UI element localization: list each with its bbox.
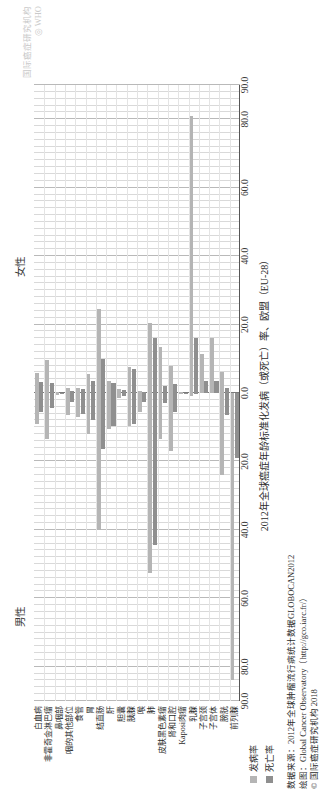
- watermark-line-iarc: 国际癌症研究机构: [22, 6, 33, 78]
- footer-line-copyright: © 国际癌症研究机构 2018: [309, 555, 321, 789]
- group-label-female: 女性: [12, 257, 27, 277]
- legend-swatch-mortality: [266, 776, 273, 783]
- bar-male-incidence: [117, 393, 121, 398]
- chart-legend: 发病率 死亡率: [247, 745, 279, 783]
- footer-line-source: 数据来源：2012年全球肿瘤流行病统计数据GLOBOCAN2012: [286, 555, 298, 789]
- bar-male-incidence: [107, 393, 111, 429]
- gridline-horizontal: [147, 85, 148, 701]
- figure-stage: 男性 女性 白血病非霍奇金淋巴瘤鼻咽部咽的其他部位食管胃结直肠肝胆囊胰腺喉肺皮肤…: [0, 0, 336, 797]
- gridline-horizontal: [96, 85, 97, 701]
- gridline-horizontal: [75, 85, 76, 701]
- legend-item-mortality: 死亡率: [263, 745, 276, 783]
- gridline-horizontal: [106, 85, 107, 701]
- gridline-horizontal: [137, 85, 138, 701]
- category-label: 非霍奇金淋巴瘤: [45, 706, 53, 762]
- bar-female-mortality: [142, 392, 146, 393]
- category-label: 食管: [76, 706, 84, 722]
- source-footer: 数据来源：2012年全球肿瘤流行病统计数据GLOBOCAN2012 绘图：Glo…: [286, 555, 321, 789]
- category-label: 肾和口腔: [169, 706, 177, 738]
- watermark-line-who: ◎ WHO: [33, 6, 44, 78]
- value-tick-label: 60.0: [240, 590, 250, 607]
- iarc-watermark: 国际癌症研究机构 ◎ WHO: [22, 6, 44, 78]
- bar-male-incidence: [76, 393, 80, 417]
- category-axis: 白血病非霍奇金淋巴瘤鼻咽部咽的其他部位食管胃结直肠肝胆囊胰腺喉肺皮肤黑色素瘤肾和…: [34, 703, 240, 797]
- gridline-horizontal: [209, 85, 210, 701]
- bar-female-mortality: [101, 359, 105, 393]
- value-tick-label: 40.0: [240, 522, 250, 539]
- bar-female-incidence: [35, 373, 39, 393]
- bar-male-incidence: [169, 393, 173, 451]
- value-tick-label: 20.0: [240, 453, 250, 470]
- bar-male-mortality: [122, 393, 126, 396]
- legend-item-incidence: 发病率: [247, 745, 260, 783]
- bar-male-mortality: [81, 393, 85, 414]
- bar-male-mortality: [101, 393, 105, 449]
- bar-female-incidence: [220, 372, 224, 393]
- bar-female-mortality: [163, 386, 167, 393]
- legend-label-mortality: 死亡率: [263, 745, 276, 772]
- bar-female-mortality: [132, 369, 136, 393]
- bar-male-mortality: [142, 393, 146, 402]
- category-label: 胰腺: [128, 706, 136, 722]
- bar-male-incidence: [96, 393, 100, 530]
- bar-female-mortality: [50, 383, 54, 393]
- bar-female-incidence: [96, 309, 100, 393]
- category-label: 膀胱: [221, 706, 229, 722]
- bar-female-incidence: [107, 381, 111, 393]
- bar-female-incidence: [86, 374, 90, 393]
- category-label: 子宫颈: [200, 706, 208, 730]
- value-tick-label: 40.0: [240, 248, 250, 265]
- bar-male-incidence: [138, 393, 142, 412]
- bar-male-incidence: [35, 393, 39, 424]
- bar-male-incidence: [66, 393, 70, 415]
- legend-swatch-incidence: [250, 776, 257, 783]
- gridline-horizontal: [86, 85, 87, 701]
- category-label: 皮肤黑色素瘤: [159, 706, 167, 754]
- bar-male-mortality: [235, 393, 239, 458]
- bar-female-mortality: [225, 388, 229, 393]
- gridline-horizontal: [65, 85, 66, 701]
- gridline-horizontal: [219, 85, 220, 701]
- bar-female-incidence: [45, 361, 49, 394]
- bar-male-incidence: [45, 393, 49, 439]
- bar-male-mortality: [184, 393, 188, 394]
- value-axis-ticks: 90.080.060.040.020.00.020.040.060.080.09…: [240, 85, 256, 701]
- bar-female-mortality: [81, 389, 85, 393]
- bar-female-mortality: [91, 381, 95, 393]
- gridline-horizontal: [116, 85, 117, 701]
- gridline-horizontal: [168, 85, 169, 701]
- bar-male-incidence: [230, 393, 234, 680]
- bar-female-incidence: [199, 354, 203, 393]
- bar-male-mortality: [39, 393, 43, 412]
- bar-male-mortality: [153, 393, 157, 545]
- gridline-horizontal: [55, 85, 56, 701]
- category-label: 子宫体: [210, 706, 218, 730]
- category-label: 喉: [138, 706, 146, 714]
- category-label: 胆囊: [118, 706, 126, 722]
- bar-female-incidence: [189, 116, 193, 393]
- bar-female-incidence: [210, 338, 214, 393]
- category-label: 胃: [87, 706, 95, 714]
- category-label: 前列腺: [231, 706, 239, 730]
- bar-male-incidence: [148, 393, 152, 573]
- bar-male-mortality: [194, 393, 198, 394]
- bar-female-incidence: [127, 367, 131, 393]
- category-label: 肝: [107, 706, 115, 714]
- bar-male-mortality: [163, 393, 167, 403]
- bar-female-incidence: [138, 391, 142, 393]
- x-axis-title: 2012年全球癌症年龄标准化发病（或死亡）率、欧盟（EU-28）: [256, 85, 271, 701]
- gridline-horizontal: [158, 85, 159, 701]
- category-label: 结直肠: [97, 706, 105, 730]
- bar-male-incidence: [189, 393, 193, 396]
- bar-female-mortality: [204, 381, 208, 393]
- gridline-horizontal: [127, 85, 128, 701]
- bar-male-incidence: [86, 393, 90, 434]
- bar-male-mortality: [132, 393, 136, 424]
- bar-female-incidence: [169, 366, 173, 393]
- gridline-horizontal: [178, 85, 179, 701]
- bar-male-incidence: [179, 393, 183, 394]
- bar-female-incidence: [117, 389, 121, 393]
- bar-female-mortality: [70, 391, 74, 393]
- bar-male-mortality: [70, 393, 74, 402]
- category-label: 肺: [148, 706, 156, 714]
